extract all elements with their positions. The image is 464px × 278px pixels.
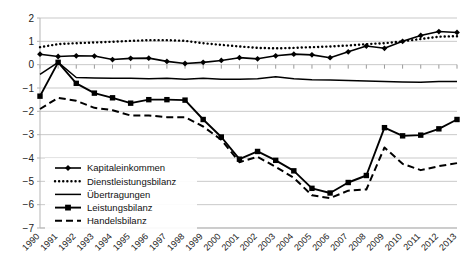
legend-label: Dienstleistungsbilanz <box>87 176 176 187</box>
legend-label: Handelsbilanz <box>87 215 147 226</box>
data-point-marker <box>364 173 369 178</box>
legend-label: Kapitaleinkommen <box>87 162 165 173</box>
chart-legend: KapitaleinkommenDienstleistungsbilanzÜbe… <box>45 158 197 232</box>
data-point-marker <box>146 97 151 102</box>
data-point-marker <box>128 100 133 105</box>
y-tick-label: 1 <box>28 36 34 47</box>
data-point-marker <box>309 186 314 191</box>
data-point-marker <box>74 81 79 86</box>
y-tick-label: 0 <box>28 59 34 70</box>
y-tick-label: −1 <box>23 83 35 94</box>
data-point-marker <box>291 168 296 173</box>
data-point-marker <box>255 149 260 154</box>
chart-container: 210−1−2−3−4−5−6−7 1990199119921993199419… <box>0 0 464 278</box>
data-point-marker <box>200 117 205 122</box>
line-chart: 210−1−2−3−4−5−6−7 1990199119921993199419… <box>0 0 464 278</box>
y-tick-label: −6 <box>23 199 35 210</box>
data-point-marker <box>400 133 405 138</box>
data-point-marker <box>436 126 441 131</box>
y-tick-label: −3 <box>23 129 35 140</box>
y-tick-label: −5 <box>23 176 35 187</box>
legend-marker <box>65 205 71 211</box>
data-point-marker <box>164 97 169 102</box>
data-point-marker <box>37 93 42 98</box>
data-point-marker <box>346 180 351 185</box>
y-tick-label: −4 <box>23 153 35 164</box>
y-tick-label: 2 <box>28 13 34 24</box>
data-point-marker <box>182 97 187 102</box>
legend-label: Übertragungen <box>87 189 150 200</box>
data-point-marker <box>110 95 115 100</box>
data-point-marker <box>382 125 387 130</box>
data-point-marker <box>327 190 332 195</box>
data-point-marker <box>273 158 278 163</box>
y-tick-label: −2 <box>23 106 35 117</box>
data-point-marker <box>418 132 423 137</box>
data-point-marker <box>55 60 60 65</box>
legend-label: Leistungsbilanz <box>87 202 153 213</box>
data-point-marker <box>454 117 459 122</box>
data-point-marker <box>92 90 97 95</box>
